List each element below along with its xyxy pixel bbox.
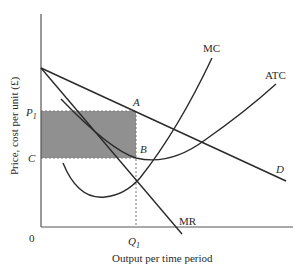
mc-label: MC [203,42,220,54]
mr-label: MR [179,215,197,227]
atc-label: ATC [265,69,286,81]
q1-label: Q1 [128,235,140,250]
p1-label: P1 [25,106,37,121]
y-axis-title: Price, cost per unit (£) [8,77,21,175]
origin-label: 0 [29,232,35,244]
c-label: C [28,152,36,164]
point-a-label: A [132,96,140,108]
monopoly-diagram: MC ATC D MR A B P1 C Q1 0 Output per tim… [0,0,305,279]
d-label: D [275,163,284,175]
point-b-label: B [140,143,147,155]
x-axis-title: Output per time period [112,252,213,264]
